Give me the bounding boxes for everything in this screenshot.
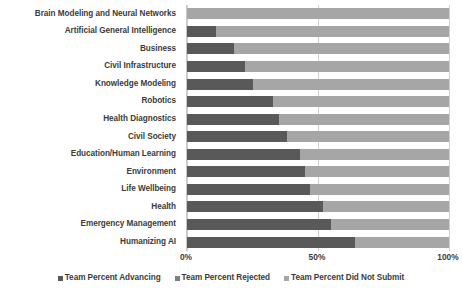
- category-label: Humanizing AI: [0, 238, 182, 246]
- bar-segment: [187, 61, 245, 72]
- category-label: Civil Infrastructure: [0, 62, 182, 70]
- legend-swatch-icon: [175, 276, 180, 281]
- chart-legend: Team Percent AdvancingTeam Percent Rejec…: [0, 274, 462, 282]
- bar-segment: [187, 79, 253, 90]
- bar-segment: [287, 131, 449, 142]
- bar-segment: [187, 237, 355, 248]
- bar-segment: [253, 79, 450, 90]
- bar-row: [187, 237, 449, 248]
- bar-segment: [305, 166, 449, 177]
- category-label: Artificial General Intelligence: [0, 27, 182, 35]
- bar-segment: [187, 201, 323, 212]
- bar-segment: [310, 184, 449, 195]
- legend-label: Team Percent Rejected: [182, 274, 270, 282]
- chart-plot-wrapper: Brain Modeling and Neural NetworksArtifi…: [0, 0, 462, 252]
- bar-segment: [323, 201, 449, 212]
- axis-tick-label: 100%: [437, 253, 458, 261]
- legend-swatch-icon: [284, 276, 289, 281]
- bar-segment: [187, 114, 279, 125]
- category-label: Emergency Management: [0, 220, 182, 228]
- gridline: [449, 5, 450, 251]
- bar-row: [187, 96, 449, 107]
- bar-row: [187, 219, 449, 230]
- category-label: Civil Society: [0, 133, 182, 141]
- bar-segment: [355, 237, 449, 248]
- value-axis: 0%50%100%: [186, 253, 448, 269]
- bar-segment: [187, 26, 216, 37]
- axis-tick-label: 0%: [180, 253, 192, 261]
- bar-row: [187, 114, 449, 125]
- category-label: Environment: [0, 168, 182, 176]
- bar-row: [187, 79, 449, 90]
- bar-segment: [187, 8, 449, 19]
- bar-row: [187, 43, 449, 54]
- bar-row: [187, 201, 449, 212]
- bar-row: [187, 61, 449, 72]
- bar-row: [187, 8, 449, 19]
- bar-segment: [187, 149, 300, 160]
- bar-segment: [279, 114, 449, 125]
- legend-item[interactable]: Team Percent Did Not Submit: [284, 274, 404, 282]
- bar-segment: [187, 131, 287, 142]
- axis-tick-label: 50%: [309, 253, 326, 261]
- bar-segment: [245, 61, 449, 72]
- legend-label: Team Percent Did Not Submit: [291, 274, 404, 282]
- bar-segment: [234, 43, 449, 54]
- legend-swatch-icon: [58, 276, 63, 281]
- bar-row: [187, 26, 449, 37]
- bar-series-container: [187, 5, 449, 251]
- legend-label: Team Percent Advancing: [65, 274, 161, 282]
- legend-item[interactable]: Team Percent Rejected: [175, 274, 270, 282]
- bar-row: [187, 184, 449, 195]
- category-label: Health: [0, 203, 182, 211]
- category-label: Business: [0, 45, 182, 53]
- bar-row: [187, 166, 449, 177]
- category-label: Brain Modeling and Neural Networks: [0, 10, 182, 18]
- bar-row: [187, 131, 449, 142]
- bar-segment: [216, 26, 449, 37]
- plot-area: [186, 5, 449, 251]
- bar-segment: [187, 166, 305, 177]
- category-label: Robotics: [0, 97, 182, 105]
- category-label: Knowledge Modeling: [0, 80, 182, 88]
- bar-segment: [300, 149, 449, 160]
- bar-segment: [273, 96, 449, 107]
- legend-item[interactable]: Team Percent Advancing: [58, 274, 161, 282]
- category-label: Education/Human Learning: [0, 150, 182, 158]
- bar-segment: [331, 219, 449, 230]
- bar-segment: [187, 219, 331, 230]
- bar-segment: [187, 96, 273, 107]
- category-label: Health Diagnostics: [0, 115, 182, 123]
- stacked-bar-chart: Brain Modeling and Neural NetworksArtifi…: [0, 0, 462, 299]
- category-label: Life Wellbeing: [0, 185, 182, 193]
- category-axis: Brain Modeling and Neural NetworksArtifi…: [0, 5, 182, 251]
- bar-segment: [187, 184, 310, 195]
- bar-segment: [187, 43, 234, 54]
- bar-row: [187, 149, 449, 160]
